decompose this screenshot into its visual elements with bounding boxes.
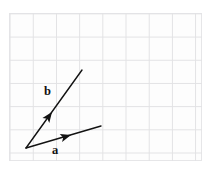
- vector-layer: [0, 0, 211, 172]
- vector-b-label: b: [44, 85, 51, 98]
- vector-b-arrowhead: [42, 110, 55, 123]
- vector-diagram-figure: b a: [0, 0, 211, 172]
- vector-a-arrowhead: [60, 131, 72, 142]
- vector-b-shaft: [26, 70, 82, 148]
- vector-a-label: a: [52, 144, 58, 157]
- vector-a: [26, 126, 101, 148]
- vector-b: [26, 70, 82, 148]
